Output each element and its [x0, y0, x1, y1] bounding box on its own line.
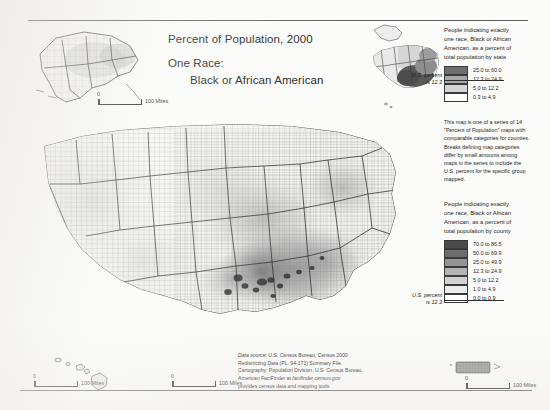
state-legend-swatches: 25.0 to 60.0 12.3 to 24.9 5.0 to 12.2 0.…: [444, 66, 518, 102]
legend-swatch: [444, 66, 468, 75]
legend-swatch: [444, 249, 468, 258]
legend-class-label: 5.0 to 12.2: [473, 86, 498, 91]
state-level-inset-map: [368, 22, 444, 116]
legend-swatch: [444, 84, 468, 93]
source-line-4: American FactFinder at factfinder.census…: [238, 375, 378, 383]
legend-class-label: 25.0 to 49.9: [473, 260, 501, 265]
factfinder-url: factfinder.census.gov: [292, 375, 340, 381]
legend-class-label: 0.3 to 4.9: [473, 95, 495, 100]
state-legend-caption: People indicating exactly one race, Blac…: [444, 26, 518, 61]
us-landmass: [24, 110, 424, 360]
legend-swatch: [444, 267, 468, 276]
legend-class-row: 0.0 to 0.9: [444, 294, 518, 303]
source-data-value: U.S. Census Bureau, Census 2000: [268, 352, 347, 358]
source-data-label: Data source:: [238, 352, 267, 358]
state-legend: People indicating exactly one race, Blac…: [444, 26, 518, 102]
legend-class-row: 25.0 to 49.9: [444, 258, 518, 267]
source-line-1: Data source: U.S. Census Bureau, Census …: [238, 352, 378, 360]
source-line-2: Redistricting Data (PL. 94-171) Summary …: [238, 360, 378, 368]
legend-swatch: [444, 285, 468, 294]
county-legend-caption: People indicating exactly one race, Blac…: [444, 200, 518, 235]
county-legend: People indicating exactly one race, Blac…: [444, 200, 518, 303]
scalebar-main-map: 0 100 Miles: [172, 378, 242, 387]
legend-class-row: 1.0 to 4.9: [444, 285, 518, 294]
scalebar-hawaii-inset: 0 100 Miles: [34, 378, 104, 387]
legend-class-label: 50.0 to 69.9: [473, 251, 501, 256]
legend-swatch: [444, 93, 468, 102]
us-percent-callout-state: U.S. percent is 12.3: [396, 72, 442, 87]
legend-class-label: 5.0 to 12.2: [473, 278, 498, 283]
legend-class-row: 50.0 to 69.9: [444, 249, 518, 258]
main-county-choropleth-map: [24, 110, 424, 360]
top-divider-rule: [28, 20, 528, 21]
source-line-3: Cartography: Population Division, U.S. C…: [238, 367, 378, 375]
legend-class-row: 5.0 to 12.2: [444, 276, 518, 285]
us-percent-line-2: is 12.3: [396, 299, 442, 306]
inset-hawaii: [384, 103, 392, 108]
county-legend-swatches: 70.0 to 86.5 50.0 to 69.9 25.0 to 49.9 1…: [444, 240, 518, 303]
legend-swatch: [444, 258, 468, 267]
legend-swatch: [444, 294, 468, 303]
legend-swatch: [444, 276, 468, 285]
inset-alaska: [374, 25, 402, 41]
scalebar-zero-label: 0: [465, 375, 468, 381]
subtitle-one-race: One Race:: [168, 57, 324, 69]
scalebar-distance-label: 100 Miles: [513, 383, 536, 389]
hawaii-inset-map: [30, 352, 140, 394]
map-title-block: Percent of Population, 2000 One Race: Bl…: [168, 33, 324, 86]
legend-class-label: 70.0 to 86.5: [473, 242, 501, 247]
us-percent-leader-line-county: [444, 300, 504, 301]
scalebar-ticks: 0: [34, 378, 78, 387]
scalebar-distance-label: 100 Miles: [145, 99, 168, 105]
us-percent-callout-county: U.S. percent is 12.3: [396, 292, 442, 307]
scalebar-zero-label: 0: [33, 373, 36, 379]
legend-class-row: 0.3 to 4.9: [444, 93, 518, 102]
legend-swatch: [444, 240, 468, 249]
scalebar-ticks: 0: [466, 380, 510, 389]
legend-class-row: 25.0 to 60.0: [444, 66, 518, 75]
map-series-note: This map is one of a series of 14 "Perce…: [444, 118, 530, 184]
subtitle-group-name: Black or African American: [168, 74, 324, 86]
us-percent-leader-line-state: [444, 80, 504, 81]
scalebar-alaska-inset: 0 100 Miles: [98, 96, 168, 105]
scalebar-ticks: 0: [98, 96, 142, 105]
legend-class-row: 5.0 to 12.2: [444, 84, 518, 93]
scalebar-zero-label: 0: [97, 91, 100, 97]
scalebar-ticks: 0: [172, 378, 216, 387]
page-title: Percent of Population, 2000: [168, 33, 324, 45]
legend-class-label: 1.0 to 4.9: [473, 287, 495, 292]
puerto-rico-inset-map: [448, 356, 508, 380]
us-percent-line-1: U.S. percent: [396, 292, 442, 299]
legend-class-row: 12.3 to 24.9: [444, 267, 518, 276]
source-credit-block: Data source: U.S. Census Bureau, Census …: [238, 352, 378, 391]
us-percent-line-2: is 12.3: [396, 79, 442, 86]
scalebar-puerto-rico-inset: 0 100 Miles: [466, 380, 536, 389]
scalebar-distance-label: 100 Miles: [81, 381, 104, 387]
legend-class-row: 70.0 to 86.5: [444, 240, 518, 249]
scalebar-zero-label: 0: [171, 373, 174, 379]
legend-class-label: 25.0 to 60.0: [473, 68, 501, 73]
legend-class-label: 12.3 to 24.9: [473, 269, 501, 274]
source-line-5: provides census data and mapping tools.: [238, 383, 378, 391]
us-percent-line-1: U.S. percent: [396, 72, 442, 79]
factfinder-text: American FactFinder at: [238, 375, 292, 381]
census-map-page: Percent of Population, 2000 One Race: Bl…: [0, 0, 550, 410]
